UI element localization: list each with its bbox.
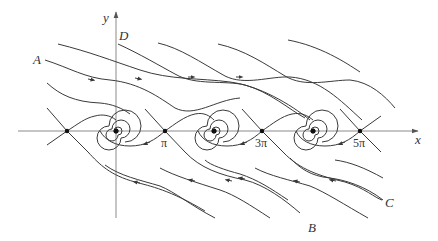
separatrix-saddle-4b [360, 116, 381, 131]
spiral-center-0 [114, 129, 119, 134]
trajectory-lower-4 [335, 160, 383, 178]
trajectory-upper-1 [58, 44, 310, 120]
phase-portrait [0, 0, 438, 241]
trajectory-upper-5 [288, 40, 360, 72]
separatrix-saddle-1 [47, 108, 205, 211]
trajectory-upper-D [118, 44, 305, 118]
label-C: C [385, 196, 394, 209]
y-axis-label: y [103, 11, 109, 24]
label-A: A [33, 53, 41, 66]
lower-arc-1 [100, 131, 165, 146]
tick-5pi: 5π [353, 137, 365, 149]
saddle-neg-pi [65, 129, 69, 133]
separatrix-saddle-2b [165, 113, 214, 131]
trajectory-lower-2 [160, 168, 270, 218]
saddle-3pi [260, 129, 264, 133]
saddle-pi [163, 129, 167, 133]
spiral-2pi [195, 110, 239, 150]
spiral-0 [97, 110, 141, 150]
trajectory-upper-2 [47, 83, 130, 114]
saddle-5pi [358, 129, 362, 133]
lower-arc-2 [198, 131, 262, 146]
trajectory-lower-3 [255, 168, 368, 218]
spiral-center-4pi [311, 129, 316, 134]
trajectory-lower-C [290, 158, 383, 200]
tick-pi: π [161, 137, 167, 149]
label-D: D [119, 29, 128, 42]
x-axis-label: x [415, 133, 421, 146]
trajectory-lower-1 [105, 165, 215, 218]
trajectory-upper-4 [218, 44, 395, 108]
trajectories [45, 40, 395, 218]
lower-arc-3 [296, 131, 360, 146]
tick-3pi: 3π [255, 137, 267, 149]
label-B: B [308, 221, 316, 234]
separatrix-saddle-2 [145, 109, 300, 213]
spiral-center-2pi [212, 129, 217, 134]
